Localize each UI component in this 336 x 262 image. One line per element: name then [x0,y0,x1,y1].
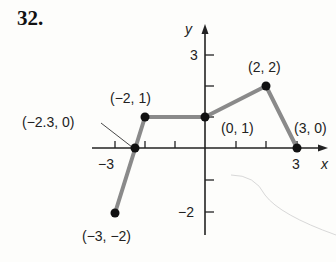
point-0-1 [201,113,210,122]
y-axis [202,24,209,235]
point-3-0 [293,144,302,153]
y-axis-arrow-icon [202,24,209,34]
point-neg2-1 [141,113,150,122]
x-ticks [115,141,297,148]
label-point-0-1: (0, 1) [221,120,254,136]
y-ticks [205,55,214,212]
y-tick-label-3: 3 [190,47,198,63]
y-tick-label-neg2: −2 [178,204,194,220]
x-axis-arrow-icon [318,145,328,152]
graph: (−3, −2) (−2.3, 0) (−2, 1) (0, 1) (2, 2)… [0,0,336,262]
leader-line [101,123,132,147]
x-tick-label-neg3: −3 [98,156,114,172]
point-2-2 [262,82,271,91]
label-point-neg2-1: (−2, 1) [110,90,151,106]
label-point-neg3-neg2: (−3, −2) [82,228,131,244]
point-neg2.3-0 [131,144,140,153]
label-point-2-2: (2, 2) [248,59,281,75]
x-tick-label-3: 3 [292,156,300,172]
label-point-3-0: (3, 0) [294,120,327,136]
x-axis-label: x [320,156,329,172]
label-point-neg2.3-0: (−2.3, 0) [22,114,75,130]
y-axis-label: y [184,21,193,37]
point-neg3-neg2 [111,209,120,218]
bleed-through-curve [231,175,336,235]
